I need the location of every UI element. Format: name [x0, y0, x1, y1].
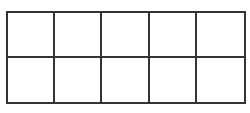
grid-cell-r1c4: [150, 13, 197, 58]
grid-cell-r1c3: [102, 13, 149, 58]
grid-cell-r2c5: [197, 58, 244, 103]
grid-cell-r2c2: [55, 58, 102, 103]
grid-2x5: [6, 11, 246, 104]
grid-cell-r2c4: [150, 58, 197, 103]
grid-cell-r1c1: [8, 13, 55, 58]
grid-cell-r1c2: [55, 13, 102, 58]
grid-cell-r1c5: [197, 13, 244, 58]
grid-cell-r2c3: [102, 58, 149, 103]
grid-cell-r2c1: [8, 58, 55, 103]
